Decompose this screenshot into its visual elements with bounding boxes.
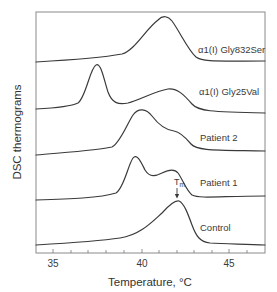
label-gly832ser: α1(I) Gly832Ser [198,44,265,55]
label-patient2: Patient 2 [200,132,238,143]
x-tick-40: 40 [136,258,148,269]
tm-arrow-head-icon [175,194,179,199]
x-axis-title: Temperature, °C [108,276,192,288]
curve-gly832ser [36,17,265,62]
curve-control [36,201,265,245]
tm-label: Tm [174,177,185,188]
x-ticks [53,249,247,253]
label-control: Control [200,222,231,233]
tm-annotation: Tm [174,177,185,199]
dsc-chart: Tm α1(I) Gly832Ser α1(I) Gly25Val Patien… [0,0,277,292]
x-tick-45: 45 [223,258,235,269]
y-axis-title: DSC thermograms [11,84,23,179]
x-tick-35: 35 [47,258,59,269]
label-gly25val: α1(I) Gly25Val [199,86,259,97]
label-patient1: Patient 1 [200,177,238,188]
